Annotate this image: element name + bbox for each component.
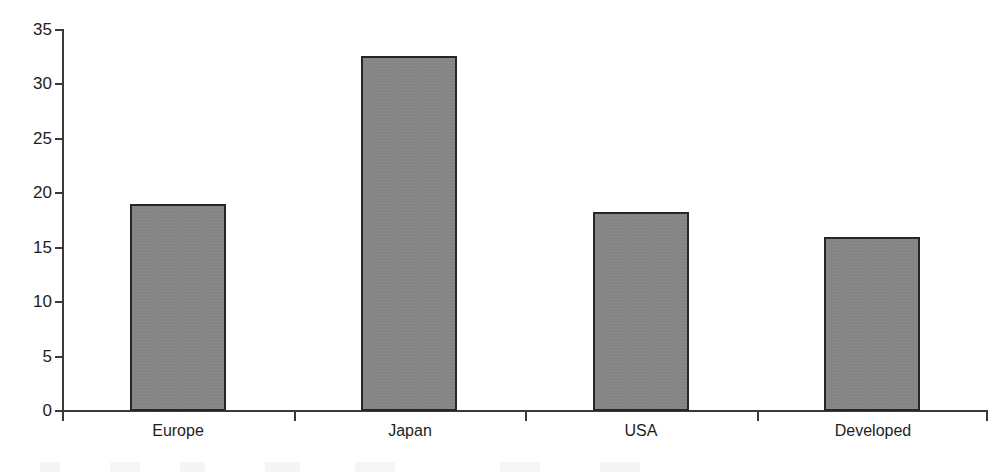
x-axis-tick (986, 412, 988, 421)
y-axis-tick (55, 247, 63, 249)
y-axis-tick-label: 25 (6, 130, 52, 147)
y-axis-tick (55, 192, 63, 194)
bar-chart: 05101520253035 EuropeJapanUSADeveloped (0, 0, 1004, 475)
y-axis-tick-label: 20 (6, 184, 52, 201)
y-axis-tick-label: 30 (6, 75, 52, 92)
bar-japan (361, 56, 457, 411)
x-axis-label-japan: Japan (294, 421, 526, 440)
y-axis-tick (55, 29, 63, 31)
y-axis-tick-label: 35 (6, 21, 52, 38)
x-axis-tick (62, 412, 64, 421)
x-axis-tick (757, 412, 759, 421)
bar-europe (130, 204, 226, 411)
x-axis-tick (525, 412, 527, 421)
y-axis-tick (55, 138, 63, 140)
bar-developed (824, 237, 920, 411)
x-axis-label-developed: Developed (757, 421, 989, 440)
y-axis-tick (55, 301, 63, 303)
y-axis-tick-label: 0 (6, 402, 52, 419)
x-axis-label-usa: USA (525, 421, 757, 440)
x-axis-label-europe: Europe (62, 421, 294, 440)
bar-usa (593, 212, 689, 411)
y-axis-tick-label: 15 (6, 239, 52, 256)
x-axis-tick (294, 412, 296, 421)
scan-artifact (0, 462, 1004, 472)
y-axis-tick (55, 83, 63, 85)
y-axis-tick-label: 10 (6, 293, 52, 310)
y-axis-tick-label: 5 (6, 348, 52, 365)
y-axis-tick (55, 356, 63, 358)
